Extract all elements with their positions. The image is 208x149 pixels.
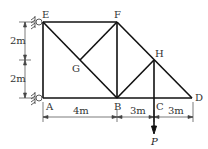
member-HB <box>117 60 154 98</box>
dim-4m: 4m <box>73 105 89 116</box>
label-G: G <box>72 63 80 74</box>
dim-3m-left: 3m <box>130 105 146 116</box>
label-D: D <box>195 92 203 103</box>
vertical-dimension <box>19 22 34 98</box>
support-A <box>31 92 42 105</box>
label-C: C <box>156 101 164 112</box>
label-B: B <box>114 101 121 112</box>
label-A: A <box>45 101 54 112</box>
label-E: E <box>42 9 49 20</box>
dim-2m-upper: 2m <box>10 35 26 46</box>
member-FG <box>80 22 117 60</box>
label-H: H <box>155 48 164 59</box>
label-F: F <box>114 9 121 20</box>
load-label-P: P <box>150 136 158 147</box>
truss-members <box>43 22 192 98</box>
dim-2m-lower: 2m <box>10 73 26 84</box>
support-E <box>31 16 42 29</box>
dim-3m-right: 3m <box>168 105 184 116</box>
truss-diagram: E F G H A B C D 2m 2m 4m 3m 3m P <box>0 0 208 149</box>
